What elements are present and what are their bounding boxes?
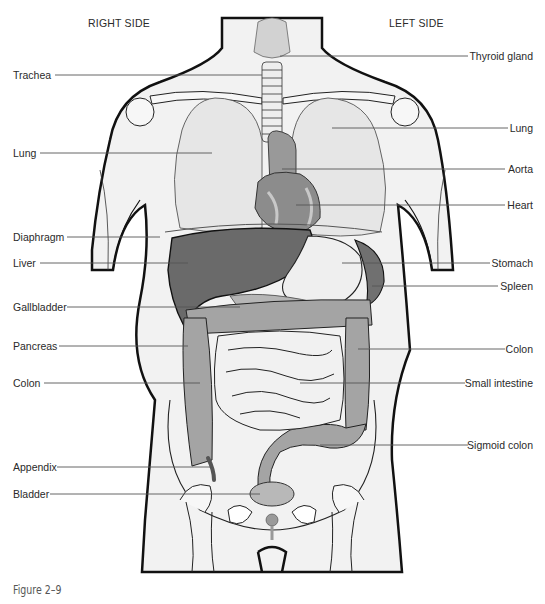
thyroid-gland (254, 18, 290, 58)
label-left-lung: Lung (510, 122, 533, 134)
anatomy-figure: RIGHT SIDE LEFT SIDE Trachea Lung Diaphr… (0, 0, 545, 604)
descending-colon (345, 318, 370, 430)
label-appendix: Appendix (13, 461, 57, 473)
label-gallbladder: Gallbladder (13, 301, 67, 313)
label-aorta: Aorta (508, 163, 533, 175)
label-small-intestine: Small intestine (465, 377, 533, 389)
left-side-header: LEFT SIDE (389, 17, 444, 29)
torso-illustration (0, 0, 545, 604)
label-bladder: Bladder (13, 488, 49, 500)
right-lung (174, 98, 262, 232)
label-thyroid-gland: Thyroid gland (469, 50, 533, 62)
label-heart: Heart (507, 199, 533, 211)
label-colon-left: Colon (506, 343, 533, 355)
label-stomach: Stomach (492, 257, 533, 269)
small-intestine (214, 331, 344, 430)
label-colon-right: Colon (13, 377, 40, 389)
figure-caption: Figure 2–9 (13, 583, 62, 597)
label-spleen: Spleen (500, 280, 533, 292)
label-liver: Liver (13, 257, 36, 269)
label-trachea: Trachea (13, 69, 51, 81)
label-sigmoid-colon: Sigmoid colon (467, 439, 533, 451)
label-pancreas: Pancreas (13, 340, 57, 352)
trachea (262, 62, 282, 142)
right-side-header: RIGHT SIDE (88, 17, 150, 29)
label-diaphragm: Diaphragm (13, 231, 64, 243)
label-right-lung: Lung (13, 147, 36, 159)
